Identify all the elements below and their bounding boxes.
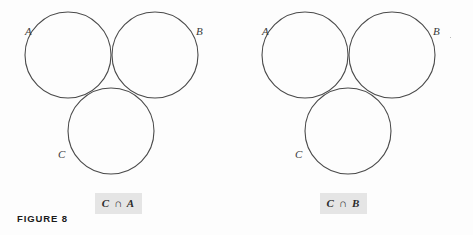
circle-b-left — [112, 12, 198, 98]
caption-c-intersect-b: C ∩ B — [320, 193, 367, 214]
venn-svg-right: A B C — [237, 0, 473, 190]
circle-c-right — [305, 88, 391, 174]
set-label-c-left: C — [58, 148, 66, 160]
figure-label: FIGURE 8 — [17, 213, 68, 224]
venn-diagram-right: A B C C ∩ B — [237, 0, 473, 235]
set-label-b-right: B — [433, 25, 440, 37]
set-label-a-left: A — [24, 25, 32, 37]
venn-diagram-left: A B C C ∩ A — [0, 0, 236, 235]
figure-canvas: A B C C ∩ A A — [0, 0, 473, 235]
circle-a-right — [262, 12, 348, 98]
set-label-b-left: B — [196, 25, 203, 37]
set-label-a-right: A — [261, 25, 269, 37]
venn-svg-left: A B C — [0, 0, 236, 190]
stray-speck — [450, 37, 451, 38]
caption-c-intersect-a: C ∩ A — [95, 193, 142, 214]
circle-a-left — [25, 12, 111, 98]
circle-c-left — [68, 88, 154, 174]
set-label-c-right: C — [295, 148, 303, 160]
circle-b-right — [349, 12, 435, 98]
